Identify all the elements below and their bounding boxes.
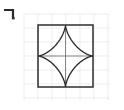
figure-canvas <box>0 0 124 110</box>
astroid-figure <box>0 0 124 110</box>
midlines <box>38 25 93 87</box>
